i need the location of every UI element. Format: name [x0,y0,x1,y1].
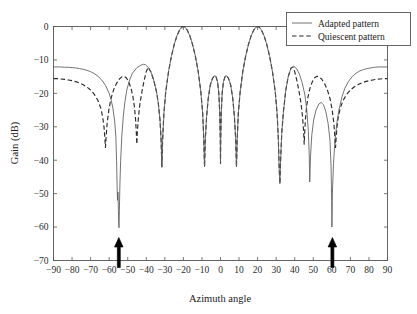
y-tick-label: −30 [34,122,49,132]
y-tick-label: −60 [34,222,49,232]
antenna-pattern-figure: −90−80−70−60−50−40−30−20−100102030405060… [0,0,417,314]
x-tick-label: 30 [271,265,281,275]
x-tick-label: 40 [290,265,300,275]
jammer-arrow-annotations [115,238,337,268]
y-axis-tick-labels: 0−10−20−30−40−50−60−70 [34,22,49,266]
chart-legend: Adapted pattern Quiescent pattern [287,13,411,46]
y-tick-label: −10 [34,55,49,65]
x-tick-label: −90 [46,265,61,275]
x-tick-label: −30 [157,265,172,275]
x-tick-label: 70 [346,265,356,275]
y-tick-label: −40 [34,156,49,166]
y-tick-label: −70 [34,256,49,266]
jammer-arrow-left [115,238,124,268]
legend-label-quiescent: Quiescent pattern [318,32,385,42]
x-tick-label: 20 [253,265,263,275]
x-tick-label: −70 [83,265,98,275]
x-tick-label: 80 [364,265,374,275]
chart-canvas: −90−80−70−60−50−40−30−20−100102030405060… [0,0,417,314]
y-tick-label: −50 [34,189,49,199]
x-axis-tick-labels: −90−80−70−60−50−40−30−20−100102030405060… [46,265,392,275]
x-tick-label: −20 [176,265,191,275]
jammer-arrow-right [328,238,337,268]
x-axis-title: Azimuth angle [189,293,251,304]
x-tick-label: 10 [234,265,244,275]
x-tick-label: 50 [309,265,319,275]
x-tick-label: 0 [218,265,223,275]
y-tick-label: 0 [44,22,49,32]
legend-label-adapted: Adapted pattern [318,19,379,29]
x-tick-label: −50 [120,265,135,275]
x-tick-label: −10 [195,265,210,275]
x-tick-label: −80 [65,265,80,275]
x-tick-label: −40 [139,265,154,275]
y-tick-label: −20 [34,89,49,99]
y-axis-title: Gain (dB) [9,121,21,164]
x-tick-label: 90 [383,265,393,275]
x-tick-label: −60 [102,265,117,275]
